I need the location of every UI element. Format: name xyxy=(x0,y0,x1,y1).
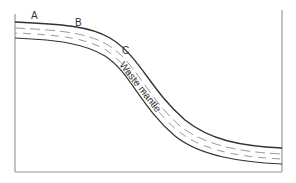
point-label-c: C xyxy=(122,45,129,56)
point-label-a: A xyxy=(31,10,38,21)
point-label-b: B xyxy=(75,17,82,28)
slope-diagram: A B C Waste mantle xyxy=(0,0,296,183)
